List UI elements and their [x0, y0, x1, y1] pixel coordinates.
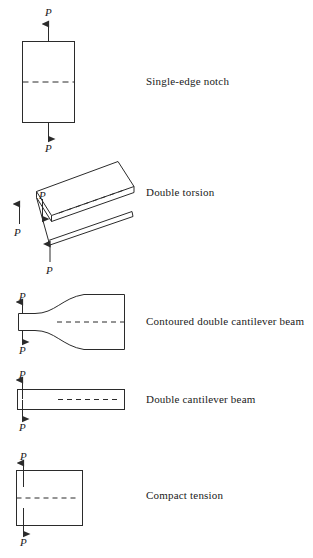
double-torsion-drawing — [20, 162, 135, 263]
dcb-bottom-load-label: P — [19, 421, 26, 433]
compact-tension-drawing — [17, 463, 83, 534]
caption-contoured-dcb: Contoured double cantilever beam — [146, 315, 304, 327]
figure-page: P P P P P P P P P P P Single-edge notch … — [0, 0, 313, 558]
dcb-top-load-label: P — [19, 368, 26, 380]
caption-double-torsion: Double torsion — [146, 186, 215, 198]
dt-center-load-label: P — [39, 189, 46, 201]
double-cantilever-beam-drawing — [18, 380, 125, 419]
plate-front-thickness — [52, 187, 135, 222]
sen-bottom-load-label: P — [45, 142, 52, 154]
contoured-dcb-drawing — [19, 295, 125, 350]
caption-single-edge-notch: Single-edge notch — [146, 75, 229, 87]
dt-left-load-label: P — [14, 226, 21, 238]
plate-lower-thickness — [49, 212, 134, 246]
caption-double-cantilever-beam: Double cantilever beam — [146, 393, 255, 405]
sen-top-load-label: P — [45, 6, 52, 18]
caption-compact-tension: Compact tension — [146, 489, 223, 501]
lower-contour — [27, 331, 125, 350]
single-edge-notch-drawing — [23, 24, 75, 139]
cdcb-top-load-label: P — [19, 290, 26, 302]
cdcb-bottom-load-label: P — [19, 344, 26, 356]
loading-tab — [19, 314, 28, 331]
ct-bottom-load-label: P — [20, 536, 27, 548]
upper-contour — [27, 295, 125, 314]
dt-front-load-label: P — [46, 264, 53, 276]
ct-top-load-label: P — [20, 450, 27, 462]
plate-top-face — [37, 162, 135, 216]
